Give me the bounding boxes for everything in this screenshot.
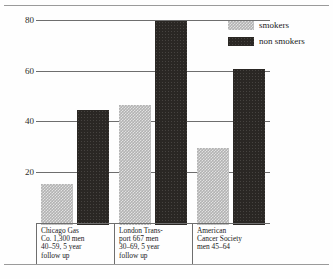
page-rule-top: [4, 5, 329, 6]
category-divider-0: [36, 224, 37, 264]
y-tick-label-60: 60: [8, 67, 34, 76]
category-label-acs-line-3: men 45–64: [197, 243, 270, 251]
y-tick-label-80: 80: [8, 16, 34, 25]
chart-legend: smokers non smokers: [228, 20, 332, 52]
category-label-london: London Trans- port 667 men 30–69, 5 year…: [114, 224, 192, 264]
category-label-chicago: Chicago Gas Co. 1,300 men 40–59, 5 year …: [36, 224, 114, 264]
category-label-band: Chicago Gas Co. 1,300 men 40–59, 5 year …: [36, 224, 270, 264]
category-divider-1: [114, 224, 115, 264]
page-rule-bottom: [4, 264, 329, 265]
gridline-60: [36, 71, 262, 72]
legend-item-non-smokers: non smokers: [228, 36, 332, 46]
bar-london-smokers: [119, 105, 151, 225]
y-tick-label-20: 20: [8, 168, 34, 177]
bar-chicago-smokers: [41, 184, 73, 225]
bar-chicago-non-smokers: [77, 110, 109, 225]
legend-swatch-non-smokers-icon: [228, 37, 254, 46]
y-tick-label-40: 40: [8, 117, 34, 126]
category-label-acs: American Cancer Society men 45–64: [192, 224, 270, 264]
bar-chart-figure: 80 60 40 20 smokers non smokers: [0, 0, 333, 279]
category-label-london-line-4: follow up: [119, 252, 192, 260]
bar-acs-non-smokers: [233, 69, 265, 225]
category-divider-2: [192, 224, 193, 264]
legend-label-smokers: smokers: [259, 21, 289, 30]
legend-swatch-smokers-icon: [228, 21, 254, 30]
legend-item-smokers: smokers: [228, 20, 332, 30]
bar-acs-smokers: [197, 148, 229, 225]
bar-london-non-smokers: [155, 21, 187, 225]
legend-label-non-smokers: non smokers: [259, 37, 305, 46]
category-label-chicago-line-4: follow up: [41, 252, 114, 260]
